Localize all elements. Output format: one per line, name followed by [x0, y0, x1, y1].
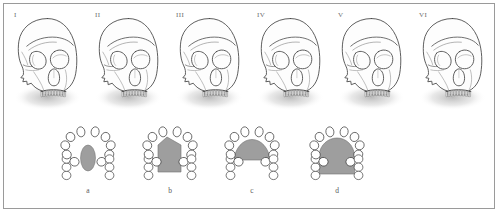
skull-illustration [170, 8, 249, 112]
skull-panel-label: V [338, 11, 343, 19]
skull-panel-label: II [95, 11, 100, 19]
dental-arch-cell: d [295, 118, 379, 206]
skull-illustration [89, 8, 168, 112]
skull-illustration [8, 8, 87, 112]
skull-panel: IV [251, 8, 330, 112]
skull-panel-label: IV [257, 11, 265, 19]
dental-arch-label: c [210, 186, 294, 195]
skull-illustration [251, 8, 330, 112]
skull-panel: I [8, 8, 87, 112]
skull-panel-label: VI [419, 11, 427, 19]
dental-arch-illustration [128, 118, 212, 186]
skull-illustration [413, 8, 492, 112]
dental-arch-label: d [295, 186, 379, 195]
dental-arch-illustration [46, 118, 130, 186]
skull-row: I II III IV V VI [8, 8, 492, 112]
dental-arch-row: a b c d [8, 118, 492, 206]
skull-panel-label: I [14, 11, 17, 19]
skull-panel-label: III [176, 11, 184, 19]
skull-panel: VI [413, 8, 492, 112]
plate-border: I II III IV V VI [3, 3, 495, 209]
skull-panel: III [170, 8, 249, 112]
dental-arch-cell: a [46, 118, 130, 206]
dental-arch-label: a [46, 186, 130, 195]
dental-arch-label: b [128, 186, 212, 195]
skull-illustration [332, 8, 411, 112]
dental-arch-illustration [210, 118, 294, 186]
skull-panel: V [332, 8, 411, 112]
figure-plate: I II III IV V VI [0, 0, 499, 213]
dental-arch-cell: c [210, 118, 294, 206]
dental-arch-cell: b [128, 118, 212, 206]
dental-arch-illustration [295, 118, 379, 186]
skull-panel: II [89, 8, 168, 112]
